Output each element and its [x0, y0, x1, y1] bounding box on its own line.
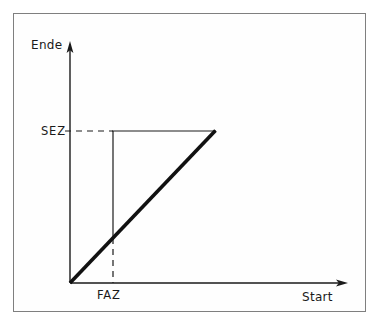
y-axis-label: Ende — [31, 38, 62, 52]
diagonal-line — [70, 131, 216, 284]
y-axis-group — [67, 41, 74, 283]
y-tick-label-sez: SEZ — [41, 124, 66, 138]
diagram-canvas: Ende Start SEZ FAZ — [0, 0, 379, 327]
x-axis-group — [70, 280, 348, 287]
x-axis-label: Start — [302, 290, 333, 304]
x-tick-label-faz: FAZ — [97, 288, 121, 302]
